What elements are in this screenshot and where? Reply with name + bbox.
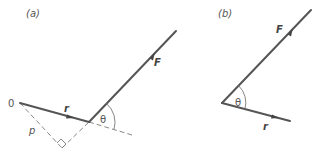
- r-arrowhead-icon: [66, 115, 74, 119]
- right-angle-marker: [57, 139, 66, 148]
- r-arrowhead-icon: [271, 115, 279, 119]
- theta-label: θ: [100, 114, 106, 125]
- r-line-extension: [89, 122, 132, 135]
- panel-b: (b) F r θ: [218, 8, 311, 132]
- r-label: r: [64, 103, 70, 114]
- r-vector: [222, 103, 290, 121]
- origin-label: 0: [8, 98, 14, 109]
- F-vector: [89, 31, 176, 122]
- theta-arc: [107, 104, 116, 130]
- panel-a: (a) 0 p r F θ: [8, 8, 176, 148]
- F-label: F: [276, 24, 283, 35]
- p-label: p: [28, 125, 35, 136]
- r-vector: [20, 103, 89, 122]
- r-label: r: [263, 121, 269, 132]
- panel-b-label: (b): [218, 8, 232, 19]
- torque-diagram: (a) 0 p r F θ (b) F r: [0, 0, 318, 159]
- theta-label: θ: [235, 97, 241, 108]
- panel-a-label: (a): [26, 8, 40, 19]
- F-vector: [222, 10, 311, 103]
- F-label: F: [154, 57, 161, 68]
